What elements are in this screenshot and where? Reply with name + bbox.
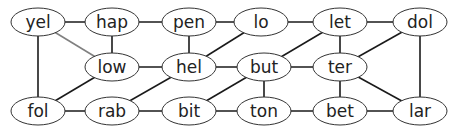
- node-label: yel: [25, 12, 50, 32]
- node-bit: bit: [162, 97, 216, 125]
- node-label: bet: [326, 101, 354, 121]
- node-label: ton: [250, 101, 278, 121]
- node-label: let: [329, 12, 351, 32]
- node-bet: bet: [313, 97, 367, 125]
- node-pen: pen: [162, 8, 216, 36]
- node-hel: hel: [162, 53, 216, 81]
- graph-diagram: yelhappenloletdollowhelbutterfolrabbitto…: [0, 0, 451, 134]
- node-rab: rab: [85, 97, 139, 125]
- node-label: hel: [176, 57, 202, 77]
- node-label: rab: [98, 101, 126, 121]
- node-dol: dol: [393, 8, 447, 36]
- node-lar: lar: [393, 97, 447, 125]
- node-label: lar: [409, 101, 431, 121]
- node-let: let: [313, 8, 367, 36]
- node-label: dol: [407, 12, 433, 32]
- node-label: but: [250, 57, 279, 77]
- node-yel: yel: [11, 8, 65, 36]
- node-hap: hap: [85, 8, 139, 36]
- node-ton: ton: [237, 97, 291, 125]
- node-label: low: [97, 57, 126, 77]
- node-fol: fol: [11, 97, 65, 125]
- node-label: ter: [328, 57, 352, 77]
- node-label: hap: [96, 12, 128, 32]
- node-label: bit: [178, 101, 201, 121]
- node-label: lo: [253, 12, 268, 32]
- node-low: low: [85, 53, 139, 81]
- node-ter: ter: [313, 53, 367, 81]
- node-but: but: [237, 53, 291, 81]
- node-label: fol: [27, 101, 48, 121]
- node-label: pen: [173, 12, 205, 32]
- node-lo: lo: [234, 8, 288, 36]
